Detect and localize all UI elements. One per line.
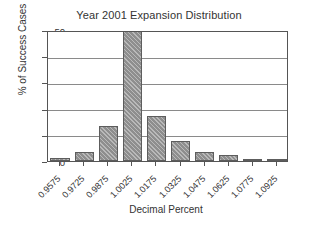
- chart-container: Year 2001 Expansion Distribution % of Su…: [0, 0, 318, 227]
- bar: [75, 152, 94, 161]
- x-tick-mark: [252, 162, 253, 166]
- x-tick-mark: [131, 162, 132, 166]
- x-tick-mark: [204, 162, 205, 166]
- gridline: [48, 58, 287, 59]
- bar: [147, 116, 166, 161]
- bar: [171, 141, 190, 161]
- bar: [123, 31, 142, 161]
- y-tick-mark: [42, 162, 47, 163]
- x-tick-mark: [276, 162, 277, 166]
- bar: [195, 152, 214, 161]
- x-tick-mark: [83, 162, 84, 166]
- bar: [219, 155, 238, 161]
- x-tick-mark: [180, 162, 181, 166]
- x-tick-mark: [228, 162, 229, 166]
- bar: [50, 158, 69, 161]
- chart-title: Year 2001 Expansion Distribution: [0, 9, 318, 21]
- bar: [267, 159, 286, 161]
- plot-area: [47, 31, 288, 162]
- x-tick-mark: [59, 162, 60, 166]
- x-tick-mark: [155, 162, 156, 166]
- gridline: [48, 84, 287, 85]
- x-tick-mark: [107, 162, 108, 166]
- gridline: [48, 110, 287, 111]
- bar: [99, 126, 118, 161]
- y-axis-title: % of Success Cases: [17, 0, 28, 120]
- bar: [243, 159, 262, 161]
- gridline: [48, 136, 287, 137]
